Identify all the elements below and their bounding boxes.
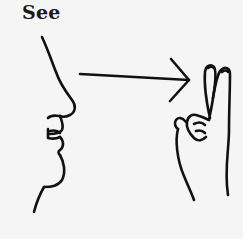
sign-illustration	[0, 0, 243, 239]
arrow-right-icon	[80, 59, 189, 101]
face-profile-icon	[34, 37, 75, 212]
